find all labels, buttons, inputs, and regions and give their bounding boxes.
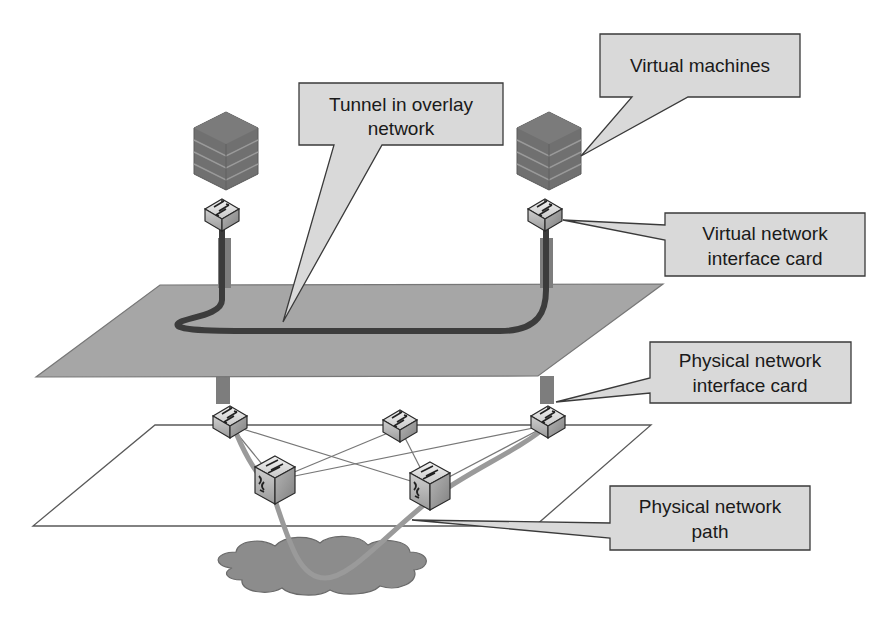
lower-left-switch-icon: [255, 456, 295, 504]
left-vm-stack-icon: [194, 112, 258, 190]
callout-tunnel-line2: network: [368, 118, 435, 139]
callout-pnic-line1: Physical network: [679, 350, 822, 371]
callout-virtual-nic: Virtual network interface card: [563, 213, 865, 276]
underlay-cloud: [218, 536, 426, 595]
lower-right-switch-icon: [410, 462, 450, 510]
right-vm-stack-icon: [517, 112, 581, 190]
callout-virtual-machines: Virtual machines: [581, 34, 800, 156]
callout-tunnel-line1: Tunnel in overlay: [329, 94, 473, 115]
left-virtual-nic-icon: [205, 199, 239, 231]
callout-vms-label: Virtual machines: [630, 55, 770, 76]
overlay-network-diagram: Tunnel in overlay network Virtual machin…: [0, 0, 894, 621]
callout-path-line2: path: [692, 521, 729, 542]
callout-vnic-line2: interface card: [707, 248, 822, 269]
right-pillar-lower: [540, 376, 554, 404]
callout-path-line1: Physical network: [639, 496, 782, 517]
right-virtual-nic-icon: [528, 199, 562, 231]
callout-pnic-line2: interface card: [692, 375, 807, 396]
left-pillar-lower: [216, 376, 230, 404]
physical-network-plane: [33, 425, 651, 526]
callout-physical-nic: Physical network interface card: [556, 342, 851, 403]
callout-vnic-line1: Virtual network: [702, 223, 828, 244]
